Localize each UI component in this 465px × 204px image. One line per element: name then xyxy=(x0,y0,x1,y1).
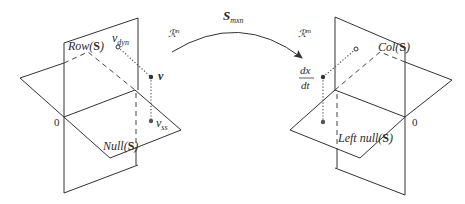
v-ss-point xyxy=(149,119,153,123)
left-null-point xyxy=(321,120,325,124)
v-ss-label: vss xyxy=(156,116,168,132)
v-point xyxy=(149,75,153,79)
svg-text:dx: dx xyxy=(300,64,311,76)
svg-text:dt: dt xyxy=(301,79,311,91)
fundamental-subspaces-diagram: Row(S) vdyn v vss Null(S) 0 ℛn Smxn xyxy=(0,0,465,204)
right-codomain-diagram: Col(S) Left null(S) 0 dx dt ℛm xyxy=(290,17,452,195)
right-origin-label: 0 xyxy=(412,116,418,128)
v-label: v xyxy=(158,69,164,83)
left-origin-label: 0 xyxy=(54,116,60,128)
left-vectors xyxy=(116,45,153,123)
mapping-arrow: Smxn xyxy=(172,8,302,58)
left-null-space-label: Left null(S) xyxy=(337,131,393,145)
v-dyn-label: vdyn xyxy=(112,31,129,47)
row-space-label: Row(S) xyxy=(67,39,104,53)
stoichiometric-matrix-label: Smxn xyxy=(223,8,244,25)
col-space-point xyxy=(354,47,358,51)
dxdt-point xyxy=(321,75,325,79)
right-vectors xyxy=(321,47,358,124)
null-space-label: Null(S) xyxy=(102,139,138,153)
dxdt-label: dx dt xyxy=(299,64,314,91)
domain-rn-label: ℛn xyxy=(168,27,180,39)
col-space-label: Col(S) xyxy=(378,40,410,54)
codomain-rm-label: ℛm xyxy=(298,27,311,39)
left-domain-diagram: Row(S) vdyn v vss Null(S) 0 ℛn xyxy=(20,18,181,193)
null-space-plane xyxy=(20,52,181,158)
